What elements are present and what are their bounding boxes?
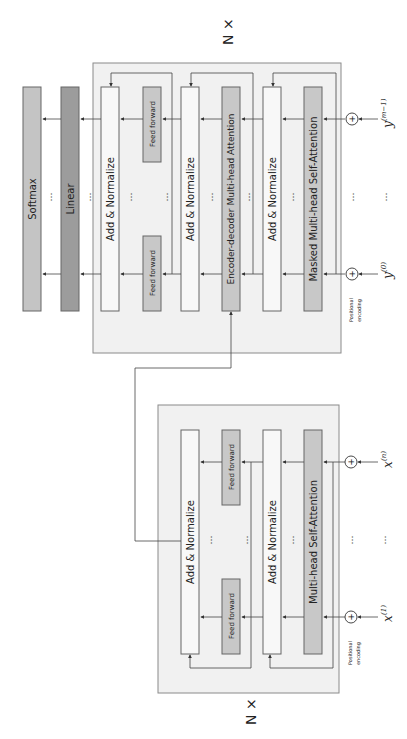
masked-self-attention-block: Masked Multi-head Self-Attention bbox=[304, 87, 322, 311]
svg-text:(0): (0) bbox=[380, 262, 388, 272]
encoder-repeat-label: N × bbox=[243, 698, 259, 725]
svg-text:⋯: ⋯ bbox=[162, 193, 172, 202]
svg-text:⋯: ⋯ bbox=[381, 193, 391, 202]
svg-text:encoding: encoding bbox=[355, 642, 362, 665]
svg-text:Multi-head Self-Attention: Multi-head Self-Attention bbox=[308, 480, 319, 604]
svg-text:(1): (1) bbox=[380, 605, 388, 615]
svg-text:+: + bbox=[347, 115, 357, 123]
svg-text:⋯: ⋯ bbox=[288, 536, 298, 545]
encoder-decoder-attention-block: Encoder-decoder Multi-head Attention bbox=[222, 87, 240, 311]
svg-text:⋯: ⋯ bbox=[207, 193, 217, 202]
svg-text:Add & Normalize: Add & Normalize bbox=[267, 500, 278, 584]
svg-text:y: y bbox=[381, 121, 395, 129]
linear-block: Linear bbox=[61, 87, 79, 311]
svg-text:⋯: ⋯ bbox=[206, 536, 216, 545]
svg-text:⋯: ⋯ bbox=[380, 536, 390, 545]
svg-text:Feed forward: Feed forward bbox=[228, 593, 236, 639]
svg-text:y: y bbox=[381, 272, 395, 280]
svg-text:+: + bbox=[346, 613, 356, 621]
encoder-self-attention-block: Multi-head Self-Attention bbox=[304, 430, 322, 654]
decoder-feed-forward-left: Feed forward bbox=[143, 236, 161, 311]
svg-text:+: + bbox=[347, 270, 357, 278]
svg-text:Feed forward: Feed forward bbox=[149, 250, 157, 296]
decoder-repeat-label: N × bbox=[220, 18, 236, 45]
softmax-label: Softmax bbox=[27, 178, 38, 220]
svg-text:(n): (n) bbox=[380, 451, 388, 461]
svg-text:Add & Normalize: Add & Normalize bbox=[185, 500, 196, 584]
svg-text:(m−1): (m−1) bbox=[380, 98, 388, 121]
svg-text:⋯: ⋯ bbox=[85, 193, 95, 202]
softmax-block: Softmax bbox=[23, 87, 41, 311]
encoder-positional-add-first: + x (1) Positional encoding bbox=[345, 605, 395, 665]
svg-text:encoding: encoding bbox=[356, 299, 363, 322]
positional-encoding-label: Positional bbox=[348, 298, 354, 322]
encoder-add-norm-bottom: Add & Normalize bbox=[263, 430, 281, 654]
encoder-add-norm-top: Add & Normalize bbox=[181, 430, 199, 654]
svg-text:Feed forward: Feed forward bbox=[149, 101, 157, 147]
svg-text:Add & Normalize: Add & Normalize bbox=[105, 157, 116, 241]
svg-text:Add & Normalize: Add & Normalize bbox=[267, 157, 278, 241]
svg-text:⋯: ⋯ bbox=[347, 536, 357, 545]
linear-label: Linear bbox=[65, 183, 76, 215]
svg-text:Feed forward: Feed forward bbox=[228, 444, 236, 490]
decoder-add-norm-top: Add & Normalize bbox=[101, 87, 119, 311]
decoder-add-norm-bottom: Add & Normalize bbox=[263, 87, 281, 311]
svg-text:Encoder-decoder Multi-head Att: Encoder-decoder Multi-head Attention bbox=[226, 113, 236, 284]
decoder-positional-add-last: + y (m−1) bbox=[346, 98, 395, 129]
decoder-feed-forward-right: Feed forward bbox=[143, 87, 161, 162]
svg-text:Add & Normalize: Add & Normalize bbox=[185, 157, 196, 241]
decoder-add-norm-mid: Add & Normalize bbox=[181, 87, 199, 311]
decoder-positional-add-first: + y (0) Positional encoding bbox=[346, 262, 395, 322]
decoder: N × Softmax Linear Add & Normalize Feed … bbox=[23, 18, 395, 405]
encoder-feed-forward-right: Feed forward bbox=[222, 430, 240, 505]
encoder: N × Add & Normalize Feed forward Feed fo… bbox=[135, 405, 395, 725]
svg-text:x: x bbox=[381, 461, 395, 468]
transformer-diagram: N × Softmax Linear Add & Normalize Feed … bbox=[0, 0, 407, 739]
svg-text:⋯: ⋯ bbox=[244, 193, 254, 202]
svg-text:⋯: ⋯ bbox=[46, 193, 56, 202]
svg-text:⋯: ⋯ bbox=[126, 193, 136, 202]
svg-text:Positional: Positional bbox=[347, 641, 353, 665]
svg-text:Masked Multi-head Self-Attenti: Masked Multi-head Self-Attention bbox=[308, 116, 319, 281]
svg-text:⋯: ⋯ bbox=[242, 536, 252, 545]
svg-text:x: x bbox=[381, 615, 395, 622]
svg-text:⋯: ⋯ bbox=[348, 193, 358, 202]
svg-text:+: + bbox=[346, 458, 356, 466]
encoder-positional-add-last: + x (n) bbox=[345, 451, 395, 468]
encoder-feed-forward-left: Feed forward bbox=[222, 579, 240, 654]
svg-text:⋯: ⋯ bbox=[288, 193, 298, 202]
